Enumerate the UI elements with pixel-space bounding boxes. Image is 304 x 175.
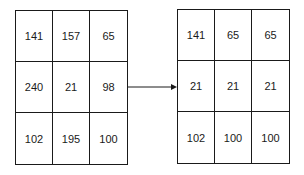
output-cell-r0-c1: 65 bbox=[215, 10, 252, 61]
input-cell-r1-c2: 98 bbox=[90, 62, 127, 113]
input-cell-r1-c1: 21 bbox=[53, 62, 90, 113]
input-grid: 141 157 65 240 21 98 102 195 100 bbox=[15, 10, 128, 165]
input-cell-r0-c0: 141 bbox=[16, 11, 53, 62]
output-cell-r1-c1: 21 bbox=[215, 61, 252, 112]
output-cell-r0-c0: 141 bbox=[178, 10, 215, 61]
output-grid: 141 65 65 21 21 21 102 100 100 bbox=[177, 9, 290, 164]
input-cell-r1-c0: 240 bbox=[16, 62, 53, 113]
output-cell-r1-c0: 21 bbox=[178, 61, 215, 112]
input-cell-r0-c2: 65 bbox=[90, 11, 127, 62]
output-cell-r2-c0: 102 bbox=[178, 112, 215, 163]
input-cell-r2-c2: 100 bbox=[90, 113, 127, 164]
input-cell-r2-c1: 195 bbox=[53, 113, 90, 164]
output-cell-r2-c1: 100 bbox=[215, 112, 252, 163]
output-cell-r1-c2: 21 bbox=[252, 61, 289, 112]
input-cell-r0-c1: 157 bbox=[53, 11, 90, 62]
arrow-right-icon bbox=[127, 82, 177, 92]
output-cell-r0-c2: 65 bbox=[252, 10, 289, 61]
input-cell-r2-c0: 102 bbox=[16, 113, 53, 164]
output-cell-r2-c2: 100 bbox=[252, 112, 289, 163]
